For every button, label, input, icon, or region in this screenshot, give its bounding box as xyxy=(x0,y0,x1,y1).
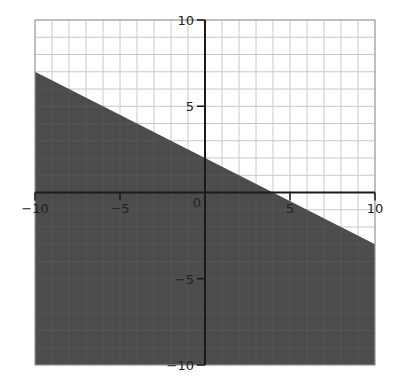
x-tick-label: 5 xyxy=(286,201,294,216)
x-tick-label: −10 xyxy=(21,201,48,216)
x-tick-label: 0 xyxy=(193,195,201,210)
y-tick-label: −5 xyxy=(175,272,194,287)
y-tick-label: 5 xyxy=(186,99,194,114)
x-tick-label: −5 xyxy=(110,201,129,216)
x-tick-label: 10 xyxy=(367,201,384,216)
inequality-graph: −10−50510−10−5510 xyxy=(0,0,404,383)
y-tick-label: 10 xyxy=(177,13,194,28)
y-tick-label: −10 xyxy=(167,358,194,373)
